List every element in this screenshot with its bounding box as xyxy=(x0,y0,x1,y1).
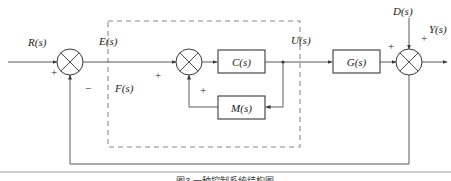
block-plant-label: G(s) xyxy=(347,56,367,69)
diagram-canvas: + − + + + + C(s) M(s) G(s) xyxy=(0,0,451,181)
block-inner-feedback-label: M(s) xyxy=(230,102,252,115)
outer-junction-sign-bottom: − xyxy=(85,82,91,94)
inner-junction-sign-bottom: + xyxy=(200,84,206,96)
label-output-signal: Y(s) xyxy=(429,23,447,36)
inner-junction-sign-left: + xyxy=(155,69,161,81)
figure-caption: 图3 一种控制系统结构图 xyxy=(176,175,274,181)
block-inner-feedback: M(s) xyxy=(218,96,265,119)
inner-junction xyxy=(176,49,202,75)
disturbance-junction-sign-left: + xyxy=(388,40,394,52)
inner-loop-takeoff-node xyxy=(281,60,284,63)
disturbance-junction xyxy=(396,49,422,75)
block-plant: G(s) xyxy=(333,50,380,73)
label-reference-signal: R(s) xyxy=(27,36,47,49)
outer-junction-sign-left: + xyxy=(51,66,57,78)
control-system-diagram: + − + + + + C(s) M(s) G(s) xyxy=(0,0,451,181)
label-disturbance-signal: D(s) xyxy=(392,5,413,18)
block-controller: C(s) xyxy=(218,50,265,73)
block-controller-label: C(s) xyxy=(232,56,251,69)
label-inner-input-signal: F(s) xyxy=(114,82,134,95)
outer-error-junction xyxy=(57,49,83,75)
label-error-signal: E(s) xyxy=(98,35,118,48)
disturbance-junction-sign-top-right: + xyxy=(421,32,427,44)
label-control-signal: U(s) xyxy=(291,34,311,47)
